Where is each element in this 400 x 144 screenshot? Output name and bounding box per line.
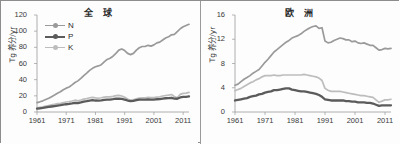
legend-label: N — [68, 20, 74, 31]
y-tick-label: 40 — [5, 76, 27, 84]
x-tick-label: 2011 — [377, 116, 393, 125]
x-tick-label: 1961 — [29, 116, 46, 125]
axis-lines — [235, 15, 391, 112]
plot-area-global — [37, 15, 195, 118]
x-tick-label: 2001 — [146, 116, 163, 125]
x-axis-ticks-global: 196119711981199120012011 — [1, 116, 198, 130]
x-tick-label: 2011 — [175, 116, 191, 125]
x-tick-label: 1961 — [227, 116, 244, 125]
x-tick-label: 1971 — [58, 116, 75, 125]
x-tick-label: 1981 — [87, 116, 104, 125]
chart-panel-europe: 欧 洲 Tg 养分/yr 0481216 1961197119811991200… — [200, 1, 400, 144]
y-tick-label: 12 — [203, 36, 225, 44]
y-tick-label: 4 — [203, 84, 225, 92]
x-tick-label: 2001 — [347, 116, 364, 125]
y-tick-label: 8 — [203, 60, 225, 68]
x-tick-label: 1981 — [287, 116, 304, 125]
legend-marker-dot — [53, 45, 58, 50]
legend-marker-dot — [53, 34, 58, 39]
plot-area-europe — [235, 15, 397, 118]
y-tick-label: 16 — [203, 11, 225, 19]
y-tick-label: 0 — [203, 108, 225, 116]
x-tick-label: 1991 — [317, 116, 334, 125]
y-tick-label: 0 — [5, 108, 27, 116]
legend-label: K — [68, 42, 73, 53]
y-tick-label: 60 — [5, 60, 27, 68]
legend-marker-dot — [53, 23, 58, 28]
x-tick-label: 1991 — [116, 116, 133, 125]
series-line-k — [235, 74, 391, 102]
chart-panel-global: 全 球 Tg 养分/yr 020406080100120 19611971198… — [1, 1, 198, 144]
y-tick-label: 20 — [5, 92, 27, 100]
y-tick-label: 80 — [5, 44, 27, 52]
x-axis-ticks-europe: 196119711981199120012011 — [201, 116, 400, 130]
legend-label: P — [68, 31, 73, 42]
y-tick-label: 100 — [5, 27, 27, 35]
y-tick-label: 120 — [5, 11, 27, 19]
x-tick-label: 1971 — [257, 116, 274, 125]
